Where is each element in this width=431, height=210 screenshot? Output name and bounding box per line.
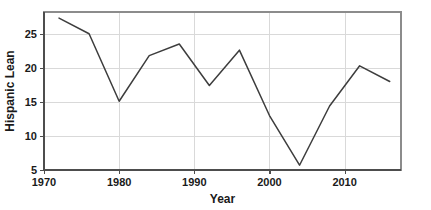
x-axis-title: Year: [210, 192, 236, 206]
chart-figure: 19701980199020002010 510152025 Year Hisp…: [0, 0, 431, 210]
x-tick-labels: 19701980199020002010: [32, 176, 357, 188]
tickmarks-group: [40, 34, 345, 174]
data-line-hispanic-lean: [59, 18, 390, 165]
gridlines-group: [44, 12, 401, 171]
plot-border: [44, 12, 401, 170]
x-tick-label: 2010: [332, 176, 356, 188]
y-tick-label: 20: [25, 62, 37, 74]
x-tick-label: 1990: [182, 176, 206, 188]
y-axis-title: Hispanic Lean: [3, 50, 17, 131]
x-tick-label: 2000: [257, 176, 281, 188]
y-tick-label: 25: [25, 28, 37, 40]
y-tick-label: 15: [25, 96, 37, 108]
line-chart: 19701980199020002010 510152025 Year Hisp…: [0, 0, 431, 210]
x-tick-label: 1980: [107, 176, 131, 188]
y-tick-labels: 510152025: [25, 28, 37, 176]
y-tick-label: 10: [25, 130, 37, 142]
x-tick-label: 1970: [32, 176, 56, 188]
plot-frame: [44, 12, 401, 170]
axis-lines: [44, 12, 401, 170]
y-tick-label: 5: [31, 164, 37, 176]
